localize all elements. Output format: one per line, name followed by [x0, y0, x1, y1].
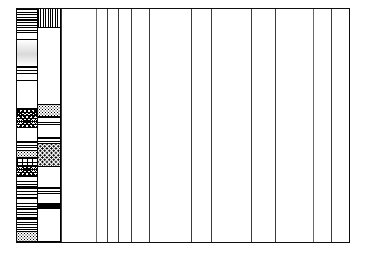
lithology-bed	[17, 209, 37, 218]
lithology-bed	[17, 40, 37, 67]
column-rule-1	[61, 9, 62, 242]
lithology-bed	[38, 194, 60, 203]
lithology-bed	[38, 167, 60, 188]
column-rule-5	[131, 9, 132, 242]
lithology-bed	[38, 144, 60, 167]
lithology-bed	[17, 188, 37, 197]
lithology-bed	[17, 9, 37, 33]
lithology-bed	[17, 198, 37, 210]
column-rule-layer	[17, 9, 349, 242]
lithology-bed	[17, 128, 37, 142]
column-rule-7	[191, 9, 192, 242]
column-rule-3	[107, 9, 108, 242]
lithology-column-b	[38, 9, 61, 242]
lithology-bed	[17, 81, 37, 109]
lithology-bed	[38, 209, 60, 242]
stratigraphic-figure	[0, 0, 368, 253]
lithology-bed	[38, 117, 60, 125]
lithology-bed	[38, 9, 60, 28]
lithology-bed	[17, 176, 37, 189]
column-rule-9	[251, 9, 252, 242]
column-rule-10	[275, 9, 276, 242]
lithology-bed	[38, 105, 60, 118]
column-rule-8	[211, 9, 212, 242]
lithology-bed	[17, 232, 37, 242]
lithology-bed	[38, 28, 60, 105]
lithology-bed	[17, 158, 37, 166]
lithology-bed	[17, 166, 37, 175]
lithology-bed	[17, 67, 37, 81]
lithology-bed	[17, 151, 37, 158]
column-rule-6	[149, 9, 150, 242]
lithology-bed	[17, 109, 37, 128]
column-rule-12	[331, 9, 332, 242]
lithology-bed	[17, 219, 37, 232]
lithology-bed	[17, 33, 37, 40]
column-rule-4	[118, 9, 119, 242]
lithology-column-a	[17, 9, 38, 242]
lithology-bed	[17, 142, 37, 151]
chart-frame	[16, 8, 350, 243]
lithology-bed	[38, 126, 60, 139]
column-rule-11	[313, 9, 314, 242]
lithology-strip	[17, 9, 61, 242]
column-rule-2	[96, 9, 97, 242]
